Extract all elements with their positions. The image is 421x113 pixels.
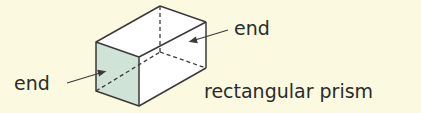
shape-name-label: rectangular prism: [204, 80, 373, 102]
rectangular-prism-diagram: end end rectangular prism: [0, 0, 421, 113]
right-end-label: end: [234, 17, 270, 39]
left-end-label: end: [14, 72, 50, 94]
